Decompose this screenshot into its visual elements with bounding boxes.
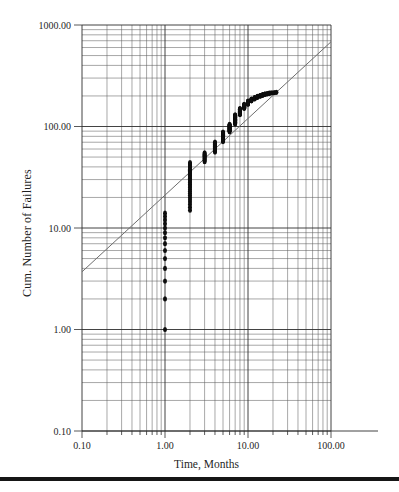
data-point xyxy=(274,90,278,95)
data-point xyxy=(163,278,167,283)
data-point xyxy=(163,266,167,271)
data-point xyxy=(242,102,246,107)
x-tick-label: 10.00 xyxy=(237,440,260,451)
x-tick-label: 100.00 xyxy=(317,440,345,451)
y-tick-label: 10.00 xyxy=(49,223,72,234)
x-axis-title: Time, Months xyxy=(82,458,331,470)
y-tick-label: 1.00 xyxy=(54,324,72,335)
data-point xyxy=(163,256,167,261)
y-tick-label: 1000.00 xyxy=(39,20,72,31)
page-rule xyxy=(0,477,399,481)
data-point xyxy=(213,140,217,145)
y-axis-title: Cum. Number of Failures xyxy=(20,169,35,297)
data-point xyxy=(221,130,225,135)
data-point xyxy=(246,98,250,103)
data-point xyxy=(228,122,232,127)
data-point xyxy=(163,230,167,235)
y-tick-label: 100.00 xyxy=(44,121,72,132)
failure-growth-figure: 0.101.0010.00100.001000.000.101.0010.001… xyxy=(0,0,399,492)
data-point xyxy=(238,106,242,111)
data-point xyxy=(203,150,207,155)
data-point xyxy=(163,241,167,246)
data-point xyxy=(163,235,167,240)
plot-area: 0.101.0010.00100.001000.000.101.0010.001… xyxy=(0,0,399,492)
x-tick-label: 0.10 xyxy=(73,440,91,451)
data-point xyxy=(163,211,167,216)
data-point xyxy=(163,327,167,332)
data-point xyxy=(163,248,167,253)
data-point xyxy=(188,160,192,165)
y-tick-label: 0.10 xyxy=(54,426,72,437)
x-tick-label: 1.00 xyxy=(156,440,174,451)
data-point xyxy=(233,112,237,117)
data-point xyxy=(163,296,167,301)
